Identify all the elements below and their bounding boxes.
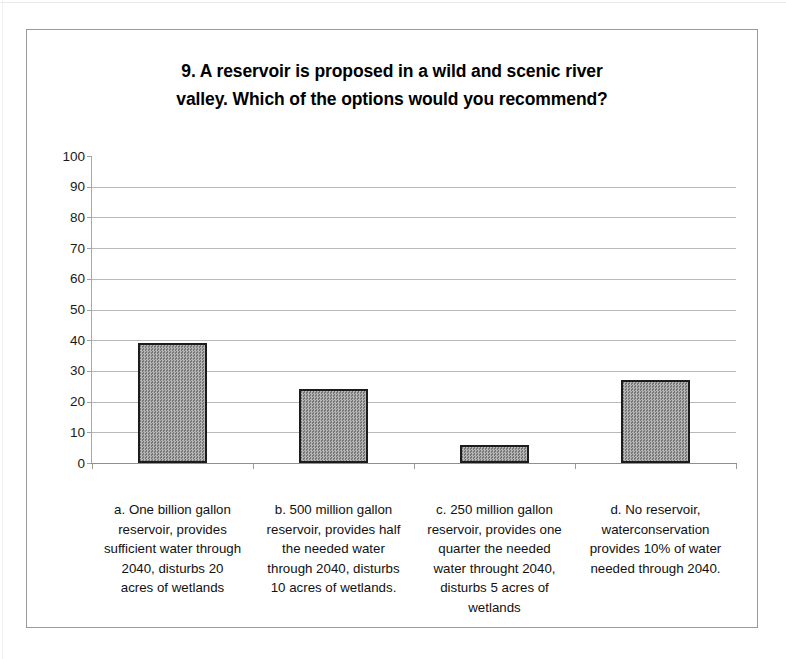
bar-3 (460, 445, 529, 463)
chart-title-line-2: valley. Which of the options would you r… (67, 85, 717, 113)
category-label-2: b. 500 million gallonreservoir, provides… (255, 500, 412, 598)
y-tick-label-60: 60 (39, 272, 85, 285)
y-tick-label-50: 50 (39, 303, 85, 316)
bar-1 (138, 343, 207, 463)
bar-2 (299, 389, 368, 463)
gridline-40 (92, 340, 736, 341)
category-label-line: wetlands (416, 598, 573, 618)
category-label-line: provides 10% of water (577, 539, 734, 559)
category-label-line: reservoir, provides one (416, 520, 573, 540)
y-tick-label-40: 40 (39, 334, 85, 347)
category-label-line: 10 acres of wetlands. (255, 578, 412, 598)
category-label-line: through 2040, disturbs (255, 559, 412, 579)
category-label-line: needed through 2040. (577, 559, 734, 579)
category-label-line: b. 500 million gallon (255, 500, 412, 520)
y-axis-tick-labels: 1009080706050403020100 (27, 156, 85, 464)
chart-frame: 9. A reservoir is proposed in a wild and… (26, 29, 758, 628)
y-tick-label-20: 20 (39, 395, 85, 408)
y-tick-label-0: 0 (39, 457, 85, 470)
chart-title: 9. A reservoir is proposed in a wild and… (67, 57, 717, 113)
y-tick-label-30: 30 (39, 364, 85, 377)
bar-4 (621, 380, 690, 463)
y-tick-label-90: 90 (39, 180, 85, 193)
gridline-50 (92, 310, 736, 311)
scanned-page: 9. A reservoir is proposed in a wild and… (0, 0, 786, 659)
category-label-line: water throught 2040, (416, 559, 573, 579)
x-tick-mark-1 (253, 464, 254, 469)
x-axis-category-labels: a. One billion gallonreservoir, provides… (92, 500, 736, 625)
x-tick-mark-3 (575, 464, 576, 469)
category-label-line: a. One billion gallon (94, 500, 251, 520)
scan-artifact-left-line (2, 0, 3, 659)
category-label-1: a. One billion gallonreservoir, provides… (94, 500, 251, 598)
category-label-line: disturbs 5 acres of (416, 578, 573, 598)
category-label-line: d. No reservoir, (577, 500, 734, 520)
category-label-line: reservoir, provides (94, 520, 251, 540)
category-label-line: c. 250 million gallon (416, 500, 573, 520)
gridline-70 (92, 248, 736, 249)
category-label-line: the needed water (255, 539, 412, 559)
y-tick-label-70: 70 (39, 242, 85, 255)
y-tick-label-80: 80 (39, 211, 85, 224)
y-tick-label-10: 10 (39, 426, 85, 439)
category-label-line: sufficient water through (94, 539, 251, 559)
x-tick-mark-0 (92, 464, 93, 469)
plot-area (92, 156, 736, 463)
category-label-line: acres of wetlands (94, 578, 251, 598)
scan-artifact-top-line (0, 2, 786, 3)
category-label-line: quarter the needed (416, 539, 573, 559)
category-label-3: c. 250 million gallonreservoir, provides… (416, 500, 573, 617)
x-tick-mark-4 (736, 464, 737, 469)
y-tick-label-100: 100 (39, 150, 85, 163)
category-label-line: waterconservation (577, 520, 734, 540)
chart-title-line-1: 9. A reservoir is proposed in a wild and… (67, 57, 717, 85)
x-tick-mark-2 (414, 464, 415, 469)
category-label-line: reservoir, provides half (255, 520, 412, 540)
category-label-line: 2040, disturbs 20 (94, 559, 251, 579)
gridline-60 (92, 279, 736, 280)
gridline-90 (92, 187, 736, 188)
gridline-80 (92, 217, 736, 218)
category-label-4: d. No reservoir,waterconservationprovide… (577, 500, 734, 578)
